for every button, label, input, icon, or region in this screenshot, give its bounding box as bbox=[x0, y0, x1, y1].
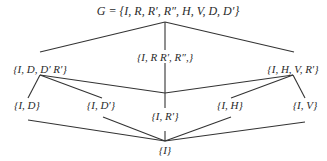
edge-top-right bbox=[165, 22, 294, 52]
edge-left-id bbox=[28, 75, 40, 98]
lattice-edges bbox=[0, 0, 327, 161]
node-top-label: G = {I, R, R′, R″, H, V, D, D′} bbox=[97, 5, 239, 17]
node-i-dp-label: {I, D′} bbox=[87, 99, 115, 111]
node-i-v-label: {I, V} bbox=[293, 99, 318, 111]
edge-left-irp bbox=[40, 75, 165, 93]
node-i-h-label: {I, H} bbox=[217, 99, 243, 111]
edge-iv-bottom bbox=[165, 122, 305, 141]
node-rotations-label: {I, R R′, R″,} bbox=[137, 51, 193, 63]
edge-left-idp bbox=[40, 75, 102, 98]
node-left-mid-label: {I, D, D′ R′} bbox=[13, 63, 67, 75]
node-i-d-label: {I, D} bbox=[14, 99, 40, 111]
node-bottom-label: {I} bbox=[159, 144, 171, 156]
edge-id-bottom bbox=[28, 120, 165, 141]
edge-right-iv bbox=[293, 75, 305, 98]
edge-right-ih bbox=[231, 75, 293, 98]
edge-right-irp bbox=[165, 75, 293, 93]
edge-top-left bbox=[40, 22, 165, 52]
node-i-rp-label: {I, R′} bbox=[151, 110, 178, 122]
node-right-mid-label: {I, H, V, R′} bbox=[267, 63, 318, 75]
